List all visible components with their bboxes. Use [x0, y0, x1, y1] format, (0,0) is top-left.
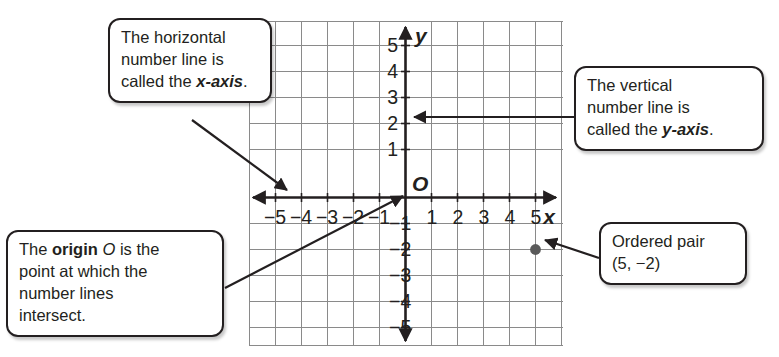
- x-tick-label: 2: [453, 206, 464, 228]
- x-tick-label: −2: [342, 206, 364, 228]
- callout-origin-symbol: O: [102, 240, 115, 258]
- callout-origin-term: origin: [52, 240, 98, 258]
- callout-x-axis: The horizontal number line is called the…: [108, 18, 272, 103]
- x-tick-label: −1: [368, 206, 390, 228]
- y-axis-label: y: [414, 24, 428, 47]
- x-axis-label: x: [542, 205, 556, 228]
- callout-x-axis-line1: The horizontal: [121, 27, 259, 49]
- y-tick-label: −5: [389, 316, 411, 338]
- callout-x-axis-line3-suffix: .: [243, 72, 248, 90]
- y-tick-label: −2: [389, 238, 411, 260]
- x-tick-label: 4: [505, 206, 516, 228]
- callout-ordered-pair-line2: (5, −2): [612, 253, 734, 275]
- plotted-point: [530, 244, 541, 255]
- y-tick-label: −3: [389, 264, 411, 286]
- y-tick-label: 4: [387, 60, 398, 82]
- y-tick-label: −1: [389, 212, 411, 234]
- x-tick-label: −5: [264, 206, 286, 228]
- callout-ordered-pair: Ordered pair (5, −2): [599, 222, 747, 285]
- x-tick-label: 1: [427, 206, 438, 228]
- y-tick-label: −4: [389, 290, 411, 312]
- diagram-page: −5 −4 −3 −2 −1 1 2 3 4 5 5 4 3 2 1 −1: [0, 0, 779, 357]
- callout-ordered-pair-line1: Ordered pair: [612, 231, 734, 253]
- callout-y-axis-line1: The vertical: [587, 75, 751, 97]
- coordinate-plane: −5 −4 −3 −2 −1 1 2 3 4 5 5 4 3 2 1 −1: [249, 21, 563, 346]
- callout-x-axis-line3: called the x-axis.: [121, 71, 259, 93]
- callout-x-axis-line2: number line is: [121, 49, 259, 71]
- callout-y-axis-term: y-axis: [662, 120, 709, 138]
- x-tick-label: 5: [531, 206, 542, 228]
- callout-y-axis-line2: number line is: [587, 97, 751, 119]
- callout-origin-line1-prefix: The: [19, 240, 52, 258]
- y-tick-label: 2: [387, 112, 398, 134]
- callout-origin-line1-suffix: is the: [115, 240, 159, 258]
- callout-y-axis: The vertical number line is called the y…: [574, 66, 764, 151]
- coordinate-plane-svg: −5 −4 −3 −2 −1 1 2 3 4 5 5 4 3 2 1 −1: [249, 21, 563, 346]
- y-tick-label: 3: [387, 86, 398, 108]
- callout-origin-line2: point at which the: [19, 261, 211, 283]
- callout-y-axis-line3: called the y-axis.: [587, 119, 751, 141]
- origin-label: O: [412, 172, 428, 195]
- callout-x-axis-term: x-axis: [196, 72, 243, 90]
- x-tick-label: −3: [316, 206, 338, 228]
- callout-origin-line3: number lines: [19, 283, 211, 305]
- callout-origin: The origin O is the point at which the n…: [6, 230, 224, 337]
- callout-origin-line4: intersect.: [19, 305, 211, 327]
- callout-y-axis-line3-prefix: called the: [587, 120, 662, 138]
- y-tick-labels-negative: −1 −2 −3 −4 −5: [389, 212, 411, 338]
- y-tick-labels: 5 4 3 2 1: [387, 34, 398, 160]
- callout-y-axis-line3-suffix: .: [709, 120, 714, 138]
- y-tick-label: 5: [387, 34, 398, 56]
- x-tick-label: −4: [290, 206, 312, 228]
- callout-origin-line1: The origin O is the: [19, 239, 211, 261]
- x-tick-label: 3: [479, 206, 490, 228]
- callout-x-axis-line3-prefix: called the: [121, 72, 196, 90]
- y-tick-label: 1: [387, 138, 398, 160]
